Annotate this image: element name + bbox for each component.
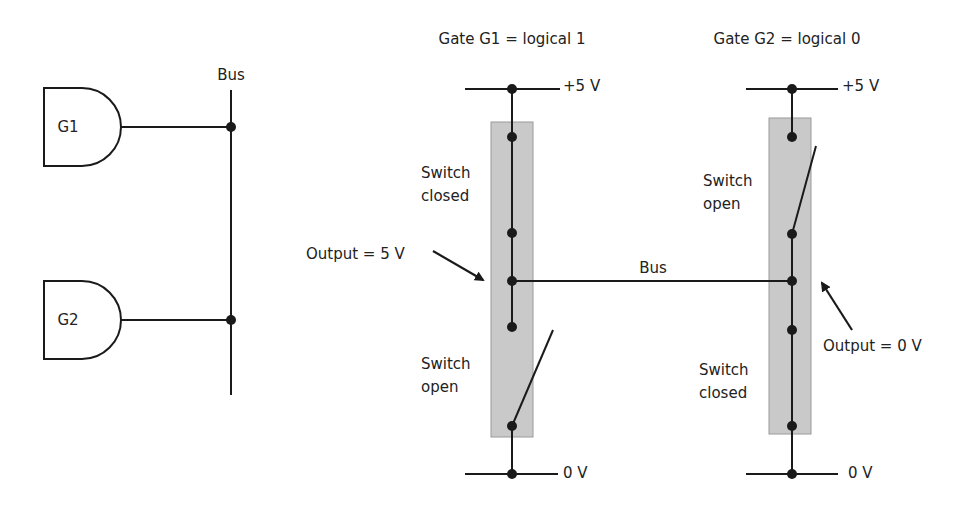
- gate1-ground-label: 0 V: [563, 464, 588, 482]
- gate1-title: Gate G1 = logical 1: [439, 30, 586, 48]
- gate2-title: Gate G2 = logical 0: [714, 30, 861, 48]
- gate2-lower-switch-label-2: closed: [699, 384, 747, 402]
- output-5v-arrow: [433, 251, 483, 280]
- diagram-canvas: [0, 0, 973, 518]
- gate-g1-shape: [44, 88, 121, 166]
- gate1-lower-switch-label-2: open: [421, 378, 458, 396]
- gate1-lower-switch-label-1: Switch: [421, 355, 471, 373]
- gate2-upper-switch-label-2: open: [703, 195, 740, 213]
- gate-g2-label: G2: [57, 311, 78, 329]
- junction-dot: [226, 122, 236, 132]
- bus-label-left: Bus: [217, 66, 245, 84]
- gate2-supply-label: +5 V: [842, 77, 879, 95]
- gate1-output-label: Output = 5 V: [306, 245, 405, 263]
- bus-label-middle: Bus: [639, 259, 667, 277]
- gate1-upper-switch-label-1: Switch: [421, 164, 471, 182]
- gate-g2-shape: [44, 281, 121, 359]
- gate-g1-label: G1: [57, 118, 78, 136]
- gate2-switch-box: [769, 118, 811, 434]
- gate2-output-label: Output = 0 V: [823, 337, 922, 355]
- gate2-upper-switch-label-1: Switch: [703, 172, 753, 190]
- gate2-lower-switch-label-1: Switch: [699, 361, 749, 379]
- gate2-ground-label: 0 V: [848, 464, 873, 482]
- output-0v-arrow: [822, 283, 852, 330]
- gate1-supply-label: +5 V: [563, 77, 600, 95]
- junction-dot: [226, 315, 236, 325]
- gate1-upper-switch-label-2: closed: [421, 187, 469, 205]
